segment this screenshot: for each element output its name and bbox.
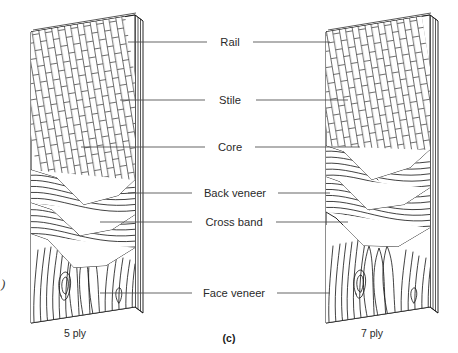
figure-canvas: Rail Stile Core Back veneer Cross band F… <box>0 0 458 353</box>
clipped-edge-glyph: ) <box>0 276 5 291</box>
left-panel-side-edge <box>135 15 143 313</box>
label-core: Core <box>218 141 242 153</box>
right-panel-side-edge <box>430 15 438 313</box>
caption-figure-letter: (c) <box>223 332 236 344</box>
label-rail: Rail <box>220 36 239 48</box>
caption-left-panel: 5 ply <box>64 327 87 339</box>
label-back-veneer: Back veneer <box>204 187 266 199</box>
label-cross-band: Cross band <box>205 216 262 228</box>
left-door-panel-5-ply <box>13 4 156 330</box>
label-stile: Stile <box>219 94 241 106</box>
plywood-door-construction-diagram: Rail Stile Core Back veneer Cross band F… <box>0 0 458 353</box>
label-face-veneer: Face veneer <box>203 287 265 299</box>
caption-right-panel: 7 ply <box>361 327 384 339</box>
right-door-panel-7-ply <box>309 4 449 330</box>
